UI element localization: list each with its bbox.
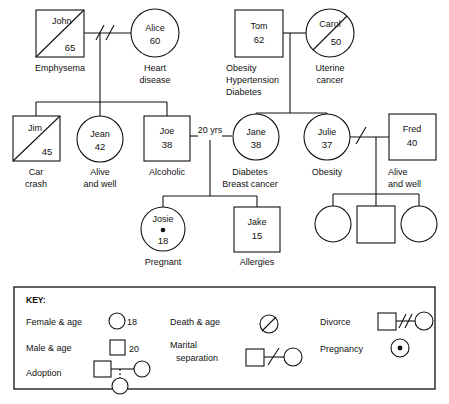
- person-condition-jim-2: crash: [25, 179, 47, 189]
- key-label-separation-1: Marital: [170, 340, 197, 350]
- person-carol[interactable]: Carol 50 Uterine cancer: [306, 9, 354, 85]
- key-box: [14, 287, 435, 389]
- person-name-alice: Alice: [145, 23, 165, 33]
- female-circle-jane-icon: [233, 114, 279, 160]
- person-age-carol: 50: [331, 36, 342, 47]
- sibship-john-alice: [36, 102, 167, 116]
- sibship-julie-fred: [333, 194, 419, 206]
- person-condition-fred-2: and well: [388, 179, 421, 189]
- person-condition-fred-1: Alive: [388, 167, 408, 177]
- person-joe[interactable]: Joe 38 Alcoholic: [144, 116, 190, 177]
- person-condition-carol-2: cancer: [316, 75, 343, 85]
- person-fred[interactable]: Fred 40 Alive and well: [388, 114, 436, 189]
- couple-tom-carol: [283, 33, 306, 113]
- person-age-josie: 18: [158, 235, 169, 246]
- person-alice[interactable]: Alice 60 Heart disease: [131, 9, 179, 85]
- key-value-male-age: 20: [129, 344, 139, 354]
- person-condition-josie: Pregnant: [145, 257, 182, 267]
- sibship-joe-jane: [163, 196, 257, 207]
- female-circle-jean-icon: [77, 116, 123, 162]
- female-circle-child3-icon[interactable]: [401, 206, 437, 242]
- key-label-adoption: Adoption: [26, 368, 62, 378]
- couple-john-alice: [84, 25, 131, 102]
- female-circle-child1-icon[interactable]: [315, 206, 351, 242]
- person-name-julie: Julie: [318, 127, 337, 137]
- key-divorce-icon: [378, 312, 433, 330]
- key-separation-icon: [246, 348, 302, 366]
- sibship-tom-carol: [256, 113, 327, 114]
- separation-slash-icon: [356, 127, 366, 144]
- person-jake[interactable]: Jake 15 Allergies: [234, 207, 280, 267]
- key-death-icon: [260, 315, 278, 333]
- female-circle-alice-icon: [131, 9, 179, 57]
- person-jane[interactable]: Jane 38 Diabetes Breast cancer: [222, 114, 279, 189]
- key-label-death-age: Death & age: [170, 317, 220, 327]
- person-condition-alice-2: disease: [139, 75, 170, 85]
- person-name-joe: Joe: [160, 126, 175, 136]
- person-condition-carol-1: Uterine: [315, 63, 344, 73]
- female-circle-julie-icon: [304, 114, 350, 160]
- key-label-pregnancy: Pregnancy: [320, 344, 364, 354]
- person-josie[interactable]: Josie 18 Pregnant: [141, 207, 185, 267]
- key-label-male-age: Male & age: [26, 343, 72, 353]
- person-condition-jim-1: Car: [29, 167, 44, 177]
- person-age-jim: 45: [42, 146, 53, 157]
- person-name-tom: Tom: [250, 21, 267, 31]
- person-condition-alice-1: Heart: [144, 63, 167, 73]
- person-condition-jane-1: Diabetes: [232, 167, 268, 177]
- key-female-circle-icon: [109, 313, 125, 329]
- person-age-jane: 38: [251, 139, 262, 150]
- pregnancy-dot-icon: [161, 228, 166, 233]
- person-condition-julie: Obesity: [312, 167, 343, 177]
- person-age-joe: 38: [162, 139, 173, 150]
- key-title: KEY:: [26, 295, 46, 305]
- person-condition-jane-2: Breast cancer: [222, 179, 278, 189]
- person-name-jake: Jake: [247, 217, 266, 227]
- person-age-tom: 62: [254, 34, 265, 45]
- person-name-jane: Jane: [246, 127, 266, 137]
- genogram-canvas: John 65 Emphysema Alice 60 Heart disease…: [0, 0, 449, 404]
- key-label-separation-2: separation: [176, 353, 218, 363]
- person-jean[interactable]: Jean 42 Alive and well: [77, 116, 123, 189]
- key-label-divorce: Divorce: [320, 317, 351, 327]
- marriage-duration-label: 20 yrs: [198, 125, 223, 135]
- person-age-julie: 37: [322, 139, 333, 150]
- male-square-child2-icon[interactable]: [357, 206, 395, 243]
- person-name-carol: Carol: [319, 19, 341, 29]
- person-condition-joe: Alcoholic: [149, 167, 186, 177]
- person-condition-jean-2: and well: [83, 179, 116, 189]
- person-age-john: 65: [65, 42, 76, 53]
- person-age-alice: 60: [150, 35, 161, 46]
- key-value-female-age: 18: [127, 317, 137, 327]
- person-condition-jean-1: Alive: [90, 167, 110, 177]
- person-name-jim: Jim: [28, 123, 42, 133]
- key-pregnancy-icon: [391, 339, 409, 357]
- person-condition-tom-3: Diabetes: [226, 87, 262, 97]
- person-age-fred: 40: [407, 137, 418, 148]
- person-age-jean: 42: [95, 141, 106, 152]
- person-age-jake: 15: [252, 230, 263, 241]
- person-tom[interactable]: Tom 62 Obesity Hypertension Diabetes: [226, 10, 283, 97]
- person-condition-tom-1: Obesity: [226, 63, 257, 73]
- person-condition-tom-2: Hypertension: [226, 75, 279, 85]
- person-condition-jake: Allergies: [240, 257, 275, 267]
- key-label-female-age: Female & age: [26, 317, 82, 327]
- person-name-jean: Jean: [90, 129, 110, 139]
- couple-julie-fred: [350, 127, 389, 194]
- key-male-square-icon: [110, 340, 125, 355]
- person-name-john: John: [52, 16, 72, 26]
- person-jim[interactable]: Jim 45 Car crash: [13, 116, 60, 189]
- person-name-fred: Fred: [403, 124, 422, 134]
- person-john[interactable]: John 65 Emphysema: [35, 10, 85, 73]
- person-condition-john: Emphysema: [35, 63, 85, 73]
- person-name-josie: Josie: [152, 214, 173, 224]
- person-julie[interactable]: Julie 37 Obesity: [304, 114, 350, 177]
